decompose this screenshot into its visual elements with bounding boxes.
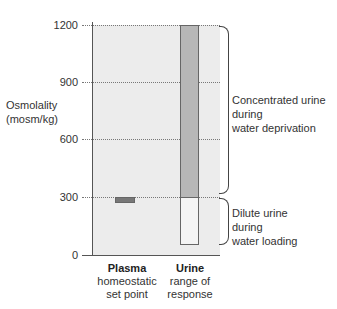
gridline-600 <box>82 139 220 140</box>
tick-900: 900 <box>6 76 78 88</box>
gridline-900 <box>82 82 220 83</box>
plot-background <box>92 25 220 255</box>
concentrated-brace <box>219 26 229 194</box>
y-axis <box>92 22 93 256</box>
tick-600: 600 <box>6 133 78 145</box>
category-plasma: Plasma homeostatic set point <box>92 262 162 301</box>
gridline-1200 <box>82 25 220 26</box>
urine-dilute-bar <box>180 197 199 245</box>
urine-concentrated-bar <box>180 25 199 197</box>
note-concentrated: Concentrated urine during water deprivat… <box>232 93 326 135</box>
tick-1200: 1200 <box>6 19 78 31</box>
note-dilute: Dilute urine during water loading <box>232 206 297 248</box>
tick-300: 300 <box>6 191 78 203</box>
y-axis-label: Osmolality (mosm/kg) <box>6 98 58 126</box>
plasma-bar <box>115 197 135 203</box>
tick-0: 0 <box>6 249 78 261</box>
x-axis <box>82 255 220 256</box>
category-urine: Urine range of response <box>160 262 220 301</box>
dilute-brace <box>219 198 229 245</box>
gridline-300 <box>82 197 220 198</box>
